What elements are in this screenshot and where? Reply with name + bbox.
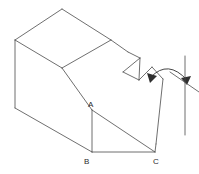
diagram-canvas: A B C (0, 0, 199, 174)
extension-line (170, 72, 199, 92)
edge-top-right-ridge (62, 9, 111, 40)
edge-notch-down (123, 58, 140, 72)
edge-right-face-bottom (155, 144, 156, 152)
edge-notch-left (128, 52, 140, 58)
edge-upper-right (111, 40, 128, 52)
edge-notch-up (123, 72, 139, 80)
isometric-solid-figure (0, 0, 199, 174)
edge-slant-to-c (92, 110, 155, 152)
reference-geometry (170, 56, 199, 135)
edge-top-front-right (62, 40, 111, 68)
rotation-annotation (147, 69, 191, 85)
edge-top-front-left (15, 40, 62, 68)
vertex-label-b: B (84, 158, 89, 166)
edge-right-face-down (156, 79, 163, 144)
solid-body-edges (15, 9, 163, 152)
edge-notch-cross (139, 58, 140, 80)
arc-arrowhead-left-icon (147, 73, 157, 83)
edge-left-bottom (15, 108, 92, 152)
edge-top-left-ridge (15, 9, 62, 40)
vertex-label-a: A (88, 101, 93, 109)
vertex-label-c: C (153, 158, 159, 166)
